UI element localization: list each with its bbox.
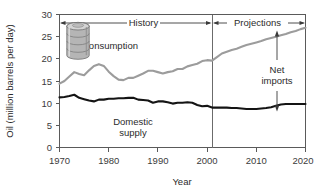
y-tick-label-10: 10: [41, 98, 52, 109]
domestic-supply-label-line1: Domestic: [113, 116, 153, 127]
x-axis-title: Year: [172, 176, 191, 187]
net-imports-annotation: Net imports: [261, 31, 292, 112]
history-arrow-left-head: [60, 21, 66, 25]
history-label: History: [129, 17, 159, 28]
projections-arrow-right-head: [300, 21, 306, 25]
projections-label: Projections: [234, 17, 281, 28]
x-axis-ticks: [60, 148, 306, 153]
x-tick-label-2010: 2010: [246, 155, 267, 166]
net-imports-label-line1: Net: [270, 64, 285, 75]
history-arrow-right-head: [206, 21, 212, 25]
projections-arrow-left-head: [213, 21, 219, 25]
y-axis-title: Oil (million barrels per day): [4, 24, 15, 138]
x-tick-label-1980: 1980: [98, 155, 119, 166]
chart-canvas: 0 5 10 15 20 25 30 Oil (million barrels …: [0, 0, 321, 196]
domestic-supply-label-line2: supply: [119, 127, 147, 138]
x-axis-tick-labels: 1970 1980 1990 2000 2010 2020: [49, 155, 314, 166]
y-tick-label-25: 25: [41, 31, 52, 42]
oil-chart-figure: 0 5 10 15 20 25 30 Oil (million barrels …: [0, 0, 321, 196]
net-imports-arrow-down-head: [275, 106, 279, 112]
y-axis-ticks: [56, 15, 60, 148]
x-tick-label-1970: 1970: [49, 155, 70, 166]
consumption-series-label: Consumption: [82, 40, 138, 51]
y-tick-label-20: 20: [41, 53, 52, 64]
oil-barrel-icon: [67, 22, 89, 59]
y-tick-label-0: 0: [47, 142, 52, 153]
x-tick-label-2000: 2000: [197, 155, 218, 166]
y-tick-label-15: 15: [41, 76, 52, 87]
y-tick-label-30: 30: [41, 9, 52, 20]
x-tick-label-1990: 1990: [147, 155, 168, 166]
x-tick-label-2020: 2020: [292, 155, 313, 166]
net-imports-label-line2: imports: [261, 75, 292, 86]
y-tick-label-5: 5: [47, 120, 52, 131]
y-axis-tick-labels: 0 5 10 15 20 25 30: [41, 9, 52, 153]
net-imports-arrow-up-head: [275, 31, 279, 37]
series-line-domestic-supply: [60, 95, 306, 109]
projections-annotation: Projections: [213, 17, 305, 28]
